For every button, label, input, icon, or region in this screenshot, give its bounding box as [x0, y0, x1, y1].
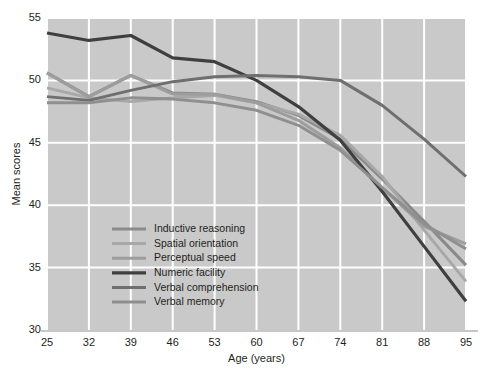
x-tick-67: 67	[292, 336, 304, 348]
legend-label-inductive-reasoning: Inductive reasoning	[154, 222, 245, 234]
y-tick-55: 55	[29, 11, 41, 23]
y-tick-50: 50	[29, 73, 41, 85]
y-tick-40: 40	[29, 198, 41, 210]
x-tick-81: 81	[376, 336, 388, 348]
x-tick-25: 25	[41, 336, 53, 348]
x-tick-53: 53	[208, 336, 220, 348]
line-chart: 303540455055 2532394653606774818895 Indu…	[0, 0, 491, 374]
x-axis-title: Age (years)	[228, 352, 285, 364]
legend-label-verbal-comprehension: Verbal comprehension	[154, 281, 259, 293]
x-tick-88: 88	[418, 336, 430, 348]
legend-label-perceptual-speed: Perceptual speed	[154, 251, 236, 263]
x-tick-95: 95	[460, 336, 472, 348]
y-axis-title: Mean scores	[10, 142, 22, 205]
x-tick-60: 60	[250, 336, 262, 348]
x-tick-46: 46	[167, 336, 179, 348]
x-tick-74: 74	[334, 336, 346, 348]
y-tick-45: 45	[29, 136, 41, 148]
y-tick-30: 30	[29, 323, 41, 335]
y-tick-35: 35	[29, 261, 41, 273]
chart-figure: 303540455055 2532394653606774818895 Indu…	[0, 0, 491, 374]
x-tick-32: 32	[83, 336, 95, 348]
legend-label-spatial-orientation: Spatial orientation	[154, 237, 238, 249]
x-tick-39: 39	[125, 336, 137, 348]
legend-label-verbal-memory: Verbal memory	[154, 295, 225, 307]
legend-label-numeric-facility: Numeric facility	[154, 266, 226, 278]
